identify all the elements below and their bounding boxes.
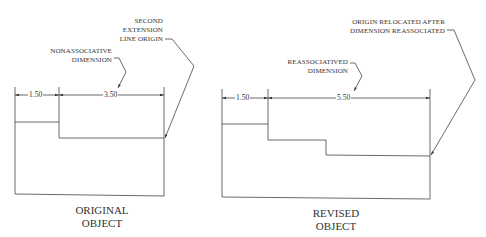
caption-revised-object: REVISED OBJECT	[296, 207, 376, 233]
original-leaders	[114, 39, 194, 138]
callout-origin-relocated: ORIGIN RELOCATED AFTER DIMENSION REASSOC…	[335, 18, 445, 36]
caption-line: REVISED	[296, 207, 376, 220]
callout-nonassociative: NONASSOCIATIVE DIMENSION	[44, 47, 112, 65]
revised-object-outline	[222, 124, 430, 199]
revised-leaders	[350, 30, 475, 155]
original-object-outline	[15, 122, 164, 196]
callout-line: ORIGIN RELOCATED AFTER	[335, 18, 445, 27]
callout-line: EXTENSION	[110, 26, 163, 35]
callout-line: SECOND	[110, 17, 163, 26]
original-dim-2: 3.50	[103, 90, 118, 99]
callout-reassociatived: REASSOCIATIVED DIMENSION	[275, 58, 348, 76]
caption-line: OBJECT	[296, 220, 376, 233]
callout-line: NONASSOCIATIVE	[44, 47, 112, 56]
original-dim-1: 1.50	[28, 90, 43, 99]
callout-line: LINE ORIGIN	[110, 35, 163, 44]
callout-line: DIMENSION REASSOCIATED	[335, 27, 445, 36]
callout-line: DIMENSION	[44, 56, 112, 65]
revised-dim-2: 5.50	[336, 93, 351, 102]
callout-line: REASSOCIATIVED	[275, 58, 348, 67]
callout-second-ext-origin: SECOND EXTENSION LINE ORIGIN	[110, 17, 163, 44]
caption-line: ORIGINAL	[62, 204, 142, 217]
caption-original-object: ORIGINAL OBJECT	[62, 204, 142, 230]
caption-line: OBJECT	[62, 217, 142, 230]
callout-line: DIMENSION	[275, 67, 348, 76]
revised-dim-1: 1.50	[235, 93, 250, 102]
